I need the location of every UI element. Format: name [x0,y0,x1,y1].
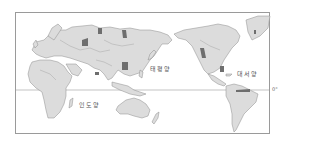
central-america [208,74,226,86]
caribbean [226,74,232,76]
southeast-asia-islands [112,82,146,96]
highlight-region [98,28,102,34]
greenland [246,16,270,40]
highlight-region [122,62,128,70]
highlight-region [95,72,99,75]
new-zealand [152,112,159,124]
indian-ocean-label: 인도양 [79,100,100,109]
highlight-region [220,66,224,72]
pacific-ocean-label: 태평양 [150,64,171,73]
north-america [174,24,240,74]
equator-label: 0° [272,86,278,92]
australia [116,98,150,118]
atlantic-ocean-label: 대서양 [237,69,258,78]
madagascar [69,98,73,108]
highlight-region [254,30,256,34]
africa [28,60,72,118]
